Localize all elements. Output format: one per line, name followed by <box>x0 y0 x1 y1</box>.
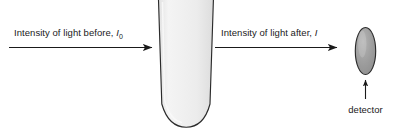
spectrophotometry-diagram: Intensity of light before, I0 Intensity … <box>0 0 408 132</box>
detector-highlight <box>358 31 366 58</box>
transmitted-beam-symbol: I <box>315 27 318 38</box>
transmitted-beam-label-text: Intensity of light after, <box>221 27 315 38</box>
transmitted-beam-label: Intensity of light after, I <box>221 27 318 38</box>
diagram-canvas: Intensity of light before, I0 Intensity … <box>0 0 408 132</box>
incident-beam-label-text: Intensity of light before, <box>14 27 116 38</box>
incident-beam-subscript: 0 <box>119 33 123 40</box>
incident-beam-label: Intensity of light before, I0 <box>14 27 123 40</box>
detector-label: detector <box>348 104 382 115</box>
